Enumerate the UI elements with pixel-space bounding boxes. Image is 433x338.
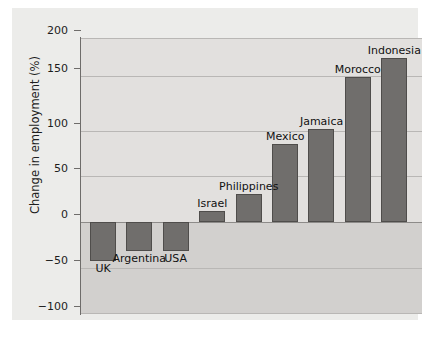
chart-panel: Change in employment (%) 200 150 100 50 … (12, 8, 418, 320)
bar-jamaica[interactable] (308, 129, 334, 222)
y-tick-neg50 (74, 260, 81, 261)
bar-label-jamaica: Jamaica (300, 116, 343, 127)
gridline-neg50 (81, 268, 422, 269)
chart-screenshot: Change in employment (%) 200 150 100 50 … (0, 0, 433, 338)
bar-label-israel: Israel (197, 198, 227, 209)
bar-israel[interactable] (199, 211, 225, 222)
gridline-100 (81, 131, 422, 132)
y-tick-0 (74, 214, 81, 215)
bar-argentina[interactable] (126, 222, 152, 251)
gridline-50 (81, 176, 422, 177)
y-tick-label-0: 0 (34, 209, 68, 220)
y-tick-label-150: 150 (34, 63, 68, 74)
gridline-150 (81, 76, 422, 77)
bar-label-morocco: Morocco (335, 64, 381, 75)
bar-morocco[interactable] (345, 77, 371, 222)
y-tick-label-100: 100 (34, 118, 68, 129)
y-tick-label-50: 50 (34, 163, 68, 174)
plot-area: UKArgentinaUSAIsraelPhilippinesMexicoJam… (81, 38, 422, 314)
y-axis-title: Change in employment (%) (28, 50, 42, 220)
gridline-neg100 (81, 313, 422, 314)
bar-label-mexico: Mexico (266, 131, 304, 142)
y-tick-label-neg50: −50 (34, 255, 68, 266)
y-tick-150 (74, 68, 81, 69)
bar-label-indonesia: Indonesia (368, 45, 421, 56)
bar-label-philippines: Philippines (219, 181, 278, 192)
bar-label-usa: USA (164, 253, 187, 264)
bar-indonesia[interactable] (381, 58, 407, 222)
bar-philippines[interactable] (236, 194, 262, 222)
bar-label-uk: UK (96, 263, 111, 274)
y-tick-50 (74, 168, 81, 169)
bar-label-argentina: Argentina (112, 253, 166, 264)
y-tick-neg100 (74, 306, 81, 307)
y-tick-100 (74, 123, 81, 124)
y-tick-label-neg100: −100 (34, 301, 68, 312)
bar-usa[interactable] (163, 222, 189, 251)
gridline-200 (81, 38, 422, 39)
y-tick-label-200: 200 (34, 25, 68, 36)
y-tick-200 (74, 30, 81, 31)
